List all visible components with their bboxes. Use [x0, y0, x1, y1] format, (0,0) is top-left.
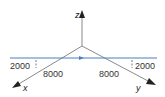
right-offset-label: 2000	[135, 62, 155, 71]
right-distance-label: 8000	[99, 70, 119, 79]
left-offset-label: 2000	[10, 62, 30, 71]
left-distance-label: 8000	[43, 70, 63, 79]
x-arrowhead-icon	[12, 81, 21, 88]
path-arrow-icon	[79, 56, 84, 60]
y-axis-label: y	[136, 84, 141, 93]
y-arrowhead-icon	[146, 78, 156, 85]
x-axis-label: x	[23, 84, 28, 93]
z-axis-label: z	[75, 11, 80, 20]
